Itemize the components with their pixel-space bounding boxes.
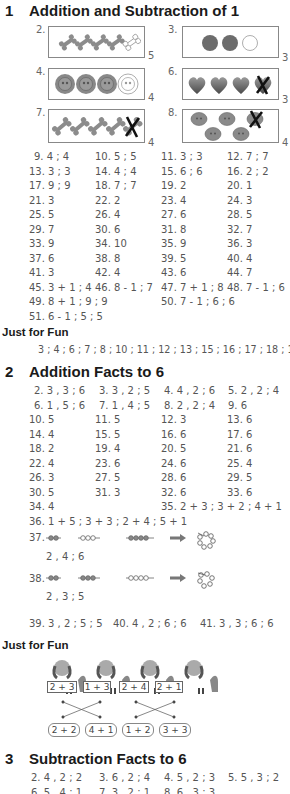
answer-item: 36. 3 (227, 237, 290, 252)
bone-label: 2 + 2 (48, 723, 80, 737)
heart-icon (187, 74, 275, 96)
answer-item: 30. 6 (95, 223, 161, 238)
bead-strings-icon (46, 530, 226, 550)
answer-item: 9. 6 (227, 399, 290, 414)
answer-item: 11. 3 ; 3 (161, 150, 227, 165)
answer-item: 21. 6 (227, 442, 290, 457)
answer-item: 20. 5 (161, 442, 227, 457)
problem-label: 38. (29, 573, 45, 584)
picture-box-bones-crossed (48, 109, 145, 143)
bone-label: 4 + 1 (85, 723, 117, 737)
answer-item: 26. 3 (29, 471, 95, 486)
answer-item: 29. 7 (29, 223, 95, 238)
answer-item: 28. 6 (161, 471, 227, 486)
answer-row: 13. 3 ; 314. 4 ; 415. 6 ; 616. 2 ; 2 (29, 165, 290, 180)
answer-item: 31. 3 (95, 486, 161, 501)
answer-item: 43. 6 (161, 266, 227, 281)
answer-row: 9. 4 ; 410. 5 ; 511. 3 ; 312. 7 ; 7 (29, 150, 290, 165)
answer-row: 45. 3 + 1 ; 446. 8 - 1 ; 747. 7 + 1 ; 84… (29, 281, 290, 296)
button-icon (54, 73, 140, 95)
answer-item: 25. 5 (29, 208, 95, 223)
answer-row: 51. 6 - 1 ; 5 ; 5 (29, 310, 290, 325)
answer-item: 23. 4 (161, 194, 227, 209)
arrow-right-icon (170, 534, 186, 542)
answer-row: 41. 342. 443. 644. 7 (29, 266, 290, 281)
dog-sign: 2 + 4 (119, 681, 149, 693)
answer-item: 40. 4 (227, 252, 290, 267)
answer-item: 10. 5 (29, 413, 95, 428)
answer-item: 24. 6 (161, 457, 227, 472)
answer-item: 37. 6 (29, 252, 95, 267)
answer-item: 51. 6 - 1 ; 5 ; 5 (29, 310, 103, 325)
answer-item: 34. 4 (29, 500, 161, 515)
answer-item: 34. 10 (95, 237, 161, 252)
answer-row: 10. 511. 512. 313. 6 (29, 413, 290, 428)
bead-answer: 2 , 4 ; 6 (46, 551, 84, 562)
problem-label: 7. (36, 107, 46, 118)
answer-item: 6. 5 , 4 ; 1 (29, 786, 95, 794)
answer-item: 30. 5 (29, 486, 95, 501)
answer-item: 15. 5 (95, 428, 161, 443)
answer-item: 8. 2 , 2 ; 4 (161, 399, 227, 414)
picture-answer: 3 (282, 52, 288, 63)
picture-box-buttons (48, 68, 145, 100)
section-1-title: 1Addition and Subtraction of 1 (5, 2, 239, 19)
heart-icon (201, 33, 271, 53)
answer-item: 4. 5 , 2 ; 3 (161, 771, 227, 786)
picture-answer: 4 (282, 137, 288, 148)
answer-item: 14. 4 ; 4 (95, 165, 161, 180)
picture-box-bones (48, 26, 145, 58)
section-3-title: 3Subtraction Facts to 6 (5, 750, 187, 767)
answer-row: 2. 3 , 3 ; 63. 3 , 2 ; 54. 4 , 2 ; 65. 2… (29, 384, 290, 399)
answer-row: 36. 1 + 5 ; 3 + 3 ; 2 + 4 ; 5 + 1 (29, 515, 290, 530)
answer-item: 12. 7 ; 7 (227, 150, 290, 165)
answer-item: 15. 6 ; 6 (161, 165, 227, 180)
problem-label: 8. (168, 107, 178, 118)
answer-item: 48. 7 - 1 ; 6 (227, 281, 290, 296)
answer-item: 22. 2 (95, 194, 161, 209)
answer-item: 32. 6 (161, 486, 227, 501)
answer-item: 21. 3 (29, 194, 95, 209)
matching-lines (46, 700, 226, 720)
answer-item: 36. 1 + 5 ; 3 + 3 ; 2 + 4 ; 5 + 1 (29, 515, 187, 530)
answer-row: 18. 219. 420. 521. 6 (29, 442, 290, 457)
answer-item: 17. 6 (227, 428, 290, 443)
answer-item: 23. 6 (95, 457, 161, 472)
bone-icon (57, 33, 141, 53)
answer-item: 16. 2 ; 2 (227, 165, 290, 180)
answer-row: 30. 531. 332. 633. 6 (29, 486, 290, 501)
answer-item: 11. 5 (95, 413, 161, 428)
bone-label: 1 + 2 (122, 723, 154, 737)
answer-item: 27. 6 (161, 208, 227, 223)
answer-item: 13. 6 (227, 413, 290, 428)
section-2-answer-grid: 2. 3 , 3 ; 63. 3 , 2 ; 54. 4 , 2 ; 65. 2… (29, 384, 290, 529)
answer-item: 25. 4 (227, 457, 290, 472)
answer-row: 6. 5 , 4 ; 17. 3 , 2 ; 18. 6 , 3 ; 3 (29, 786, 290, 794)
dog-sign: 1 + 3 (83, 681, 111, 693)
answer-item: 5. 5 , 3 ; 2 (227, 771, 290, 786)
answer-row: 49. 8 + 1 ; 9 ; 950. 7 - 1 ; 6 ; 6 (29, 295, 290, 310)
answer-item: 44. 7 (227, 266, 290, 281)
answer-item: 41. 3 (29, 266, 95, 281)
problem-label: 3. (168, 24, 178, 35)
answer-item: 3. 6 , 2 ; 4 (95, 771, 161, 786)
bone-icon-row (57, 33, 141, 53)
answer-item: 49. 8 + 1 ; 9 ; 9 (29, 295, 161, 310)
section-3-answer-grid: 2. 4 , 2 ; 23. 6 , 2 ; 44. 5 , 2 ; 35. 5… (29, 771, 290, 794)
answer-item: 35. 2 + 3 ; 3 + 2 ; 4 + 1 (161, 500, 282, 515)
answer-row: 25. 526. 427. 628. 5 (29, 208, 290, 223)
answer-item: 45. 3 + 1 ; 4 (29, 281, 95, 296)
just-for-fun-heading: Just for Fun (2, 326, 68, 338)
answer-item: 5. 2 , 2 ; 4 (227, 384, 290, 399)
answer-item: 20. 1 (227, 179, 290, 194)
cross-mark (126, 117, 139, 137)
bead-strings-icon (46, 570, 226, 590)
answer-row: 14. 415. 516. 617. 6 (29, 428, 290, 443)
answer-item: 18. 7 ; 7 (95, 179, 161, 194)
picture-answer: 4 (148, 92, 154, 103)
answer-row: 26. 327. 528. 629. 5 (29, 471, 290, 486)
answer-row: 34. 435. 2 + 3 ; 3 + 2 ; 4 + 1 (29, 500, 290, 515)
bead-answer: 2 , 3 ; 5 (46, 591, 84, 602)
answer-row: 37. 638. 839. 540. 4 (29, 252, 290, 267)
answer-row: 29. 730. 631. 832. 7 (29, 223, 290, 238)
